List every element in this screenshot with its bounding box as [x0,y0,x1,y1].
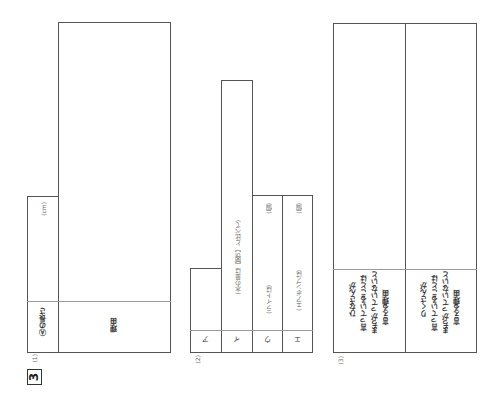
question-number: 3 [27,373,41,381]
part3-hina-label-line4: 言える理由 [381,290,392,325]
part2-key-i: イ [233,336,242,343]
part1-label: (1) [30,354,39,363]
part2-key-a: ア [202,336,211,343]
part3-riku-label-line3: まちがっていないと [441,271,452,334]
part2-label: (2) [193,355,202,364]
part3-riku-label-line2: 言っていることは [430,275,441,331]
part3-label: (3) [336,356,345,365]
part2-key-e: エ [294,336,303,343]
part3-hina-label-line3: まちがっていないと [370,271,381,334]
question-number-box: 3 [27,369,42,385]
part1-reason-label: 理由 [110,318,119,332]
part2-unit-u: (個) [264,203,273,214]
part2-prompt-u: (ライトは) [264,285,273,314]
part1-reason-answer-box[interactable] [58,22,171,353]
part2-row-i-box[interactable] [221,80,253,353]
part3-riku-label-line1: りくさんが [419,282,430,317]
part1-unit-cm: (cm) [39,202,48,216]
part3-riku-label-line4: 言える理由 [452,290,463,325]
part2-prompt-e: (エアポンプは) [294,270,303,311]
part1-length-label: Ⓐの長さ [39,308,48,336]
part3-hina-label-line2: 言っていることは [359,275,370,331]
part2-key-divider [190,330,313,331]
part2-prompt-i: (水の量は【図5】と比べて) [233,220,242,295]
part2-unit-e: (個) [294,203,303,214]
part3-label-divider [333,269,477,270]
part1-label-divider [27,301,171,302]
part3-hina-label-line1: ひなさんが [348,282,359,317]
part2-key-u: ウ [264,336,273,343]
